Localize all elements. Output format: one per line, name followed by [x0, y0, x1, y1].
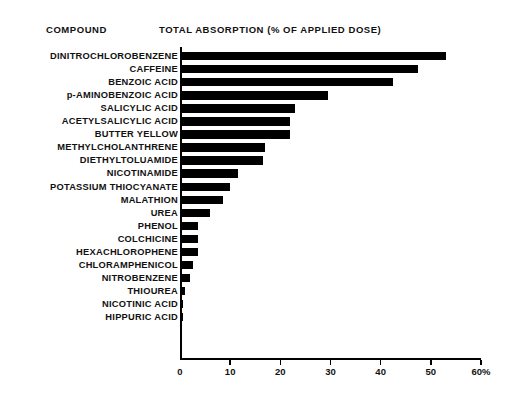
bar-row: SALICYLIC ACID	[0, 102, 507, 115]
bar	[180, 91, 328, 99]
bar-row-label: PHENOL	[138, 220, 178, 233]
bar-row-label: NICOTINIC ACID	[102, 298, 178, 311]
x-tick-label: 20	[275, 366, 286, 377]
bar	[180, 183, 230, 191]
bar-row: BENZOIC ACID	[0, 76, 507, 89]
bar-row-label: BENZOIC ACID	[108, 76, 178, 89]
bar	[180, 222, 198, 230]
bar	[180, 287, 185, 295]
x-tick-label: 50	[426, 366, 437, 377]
bar-row-label: NITROBENZENE	[102, 272, 178, 285]
bar	[180, 117, 290, 125]
bar	[180, 156, 263, 164]
bar	[180, 235, 198, 243]
bar-row: BUTTER YELLOW	[0, 128, 507, 141]
bar-row-label: HEXACHLOROPHENE	[76, 246, 178, 259]
bar	[180, 78, 393, 86]
bar-row: NICOTINAMIDE	[0, 167, 507, 180]
bar	[180, 209, 210, 217]
x-tick-label: 40	[375, 366, 386, 377]
bar-row-label: DIETHYLTOLUAMIDE	[80, 154, 178, 167]
bar-row-label: CHLORAMPHENICOL	[79, 259, 178, 272]
x-tick	[330, 360, 331, 365]
bar-row: METHYLCHOLANTHRENE	[0, 141, 507, 154]
bar-row: DINITROCHLOROBENZENE	[0, 50, 507, 63]
bar	[180, 143, 265, 151]
x-tick	[229, 360, 230, 365]
bar-row: POTASSIUM THIOCYANATE	[0, 181, 507, 194]
bar	[180, 300, 183, 308]
bar-row: MALATHION	[0, 194, 507, 207]
bar-row-label: CAFFEINE	[130, 63, 179, 76]
x-tick-label: 60%	[471, 366, 490, 377]
x-tick-label: 10	[225, 366, 236, 377]
bar-row: DIETHYLTOLUAMIDE	[0, 154, 507, 167]
bar	[180, 104, 295, 112]
bar-row: PHENOL	[0, 220, 507, 233]
bar-row-label: SALICYLIC ACID	[100, 102, 178, 115]
bar-row-label: THIOUREA	[127, 285, 178, 298]
bar	[180, 130, 290, 138]
bar-row-label: p-AMINOBENZOIC ACID	[67, 89, 178, 102]
bar-row-label: ACETYLSALICYLIC ACID	[62, 115, 178, 128]
bar	[180, 274, 190, 282]
bar-row-label: COLCHICINE	[118, 233, 178, 246]
bar-row-label: UREA	[151, 207, 178, 220]
bar-row-label: METHYLCHOLANTHRENE	[57, 141, 178, 154]
bar	[180, 196, 223, 204]
bar	[180, 65, 418, 73]
bar-row: NICOTINIC ACID	[0, 298, 507, 311]
x-tick-label: 30	[325, 366, 336, 377]
column-header-absorption: TOTAL ABSORPTION (% OF APPLIED DOSE)	[159, 24, 381, 35]
bar-row: NITROBENZENE	[0, 272, 507, 285]
x-tick	[480, 360, 481, 365]
bar	[180, 52, 446, 60]
bar-row: HEXACHLOROPHENE	[0, 246, 507, 259]
bar	[180, 169, 238, 177]
bar-row-label: DINITROCHLOROBENZENE	[50, 50, 178, 63]
bar-row: HIPPURIC ACID	[0, 311, 507, 324]
x-tick	[430, 360, 431, 365]
bar-row: CHLORAMPHENICOL	[0, 259, 507, 272]
x-tick-label: 0	[177, 366, 182, 377]
bar-row-label: BUTTER YELLOW	[95, 128, 178, 141]
bar	[180, 313, 183, 321]
bar	[180, 261, 193, 269]
bar-row-label: HIPPURIC ACID	[105, 311, 178, 324]
bar-row: p-AMINOBENZOIC ACID	[0, 89, 507, 102]
bar-row: UREA	[0, 207, 507, 220]
bar-row: CAFFEINE	[0, 63, 507, 76]
bar-row-label: POTASSIUM THIOCYANATE	[50, 181, 178, 194]
column-header-compound: COMPOUND	[46, 24, 107, 35]
x-tick	[280, 360, 281, 365]
bar-row-label: NICOTINAMIDE	[107, 167, 178, 180]
x-tick	[380, 360, 381, 365]
bar-chart: COMPOUND TOTAL ABSORPTION (% OF APPLIED …	[0, 0, 507, 401]
bar-row: ACETYLSALICYLIC ACID	[0, 115, 507, 128]
bar	[180, 248, 198, 256]
bar-row-label: MALATHION	[121, 194, 178, 207]
bar-row: COLCHICINE	[0, 233, 507, 246]
bar-row: THIOUREA	[0, 285, 507, 298]
